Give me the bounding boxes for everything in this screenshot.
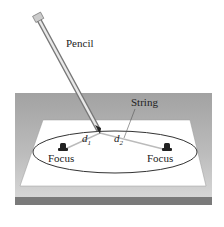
ellipse-drawing-diagram xyxy=(0,0,224,227)
table-edge xyxy=(15,197,212,205)
pencil-label: Pencil xyxy=(66,37,94,49)
focus-left-label: Focus xyxy=(48,152,74,164)
focus-right-label: Focus xyxy=(147,152,173,164)
d2-label: d2 xyxy=(114,132,123,147)
string-label: String xyxy=(131,96,158,108)
d1-label: d1 xyxy=(82,132,91,147)
